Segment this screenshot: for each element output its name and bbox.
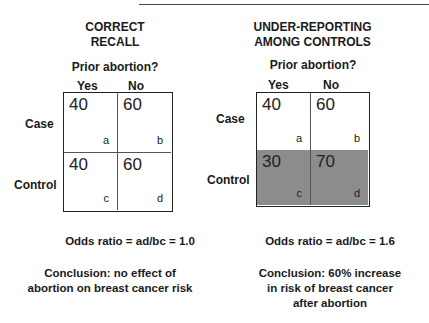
right-title-line2: AMONG CONTROLS [245,35,380,50]
right-title-line1: UNDER-REPORTING [245,20,380,35]
cell-label: c [104,192,110,204]
left-odds-ratio: Odds ratio = ad/bc = 1.0 [40,234,220,249]
right-cell-b: 60 b [311,93,368,150]
cell-value: 70 [316,152,335,172]
right-2x2-table: 40 a 60 b 30 c 70 d [256,92,370,207]
cell-value: 60 [123,95,142,115]
right-question: Prior abortion? [258,58,368,72]
left-title: CORRECT RECALL [60,20,170,50]
cell-label: b [157,134,163,146]
left-title-line1: CORRECT [60,20,170,35]
right-conclusion-line3: after abortion [240,296,420,311]
right-row-control: Control [207,173,250,187]
cell-value: 40 [262,95,281,115]
right-col-no: No [323,78,339,92]
right-cell-a: 40 a [257,93,311,150]
left-conclusion-line1: Conclusion: no effect of [10,266,210,281]
cell-value: 60 [123,155,142,175]
cell-label: d [354,187,360,199]
left-question: Prior abortion? [60,60,170,74]
left-cell-b: 60 b [118,93,171,153]
right-conclusion: Conclusion: 60% increase in risk of brea… [240,266,420,311]
left-col-yes: Yes [77,79,98,93]
cell-label: d [157,192,163,204]
right-row-case: Case [216,112,245,126]
cell-value: 40 [69,95,88,115]
right-col-yes: Yes [268,78,289,92]
left-cell-d: 60 d [118,153,171,210]
right-cell-d: 70 d [311,150,368,205]
top-rule [139,4,429,5]
left-conclusion: Conclusion: no effect of abortion on bre… [10,266,210,296]
cell-value: 60 [316,95,335,115]
cell-value: 30 [262,152,281,172]
cell-label: c [297,187,303,199]
cell-label: a [296,132,302,144]
left-2x2-table: 40 a 60 b 40 c 60 d [63,92,173,212]
left-row-case: Case [25,117,54,131]
right-conclusion-line1: Conclusion: 60% increase [240,266,420,281]
cell-label: a [103,134,109,146]
left-col-no: No [128,79,144,93]
cell-value: 40 [69,155,88,175]
left-row-control: Control [14,178,57,192]
right-title: UNDER-REPORTING AMONG CONTROLS [245,20,380,50]
left-title-line2: RECALL [60,35,170,50]
right-cell-c: 30 c [257,150,311,205]
left-cell-c: 40 c [64,153,118,210]
left-conclusion-line2: abortion on breast cancer risk [10,281,210,296]
right-conclusion-line2: in risk of breast cancer [240,281,420,296]
right-odds-ratio: Odds ratio = ad/bc = 1.6 [240,234,420,249]
cell-label: b [354,132,360,144]
left-cell-a: 40 a [64,93,118,153]
